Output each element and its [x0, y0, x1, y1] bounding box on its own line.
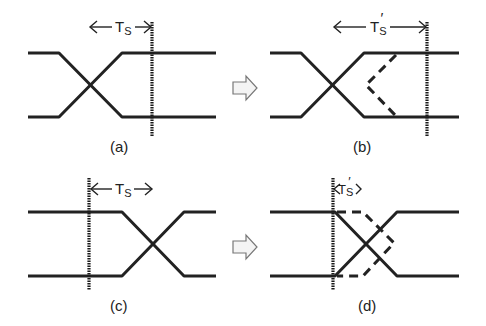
panel-a: TS (a): [28, 18, 216, 155]
data-eye-waveform: [28, 212, 216, 276]
setup-time-arrow: TS: [91, 180, 152, 199]
setup-time-diagram: TS (a) TS′ (b): [0, 0, 486, 326]
panel-d: TS′ (d): [270, 174, 459, 314]
svg-text:TS′: TS′: [370, 9, 387, 37]
data-eye-waveform: [28, 53, 216, 117]
panel-c: TS (c): [28, 178, 216, 314]
panel-label-a: (a): [110, 138, 128, 155]
panel-label-b: (b): [353, 138, 371, 155]
svg-text:TS: TS: [115, 18, 132, 37]
block-right-arrow-icon: [233, 76, 257, 100]
data-eye-waveform: [270, 53, 459, 117]
setup-time-arrow: TS: [90, 18, 151, 37]
svg-text:TS: TS: [115, 180, 132, 199]
degraded-transition-dashed: [366, 55, 396, 116]
panel-label-c: (c): [110, 297, 128, 314]
setup-time-arrow: TS′: [334, 174, 361, 198]
svg-text:TS′: TS′: [338, 174, 353, 198]
setup-time-arrow: TS′: [334, 9, 426, 37]
panel-b: TS′ (b): [270, 9, 459, 155]
data-eye-waveform: [270, 212, 459, 276]
panel-label-d: (d): [358, 297, 376, 314]
block-right-arrow-icon: [233, 235, 257, 259]
